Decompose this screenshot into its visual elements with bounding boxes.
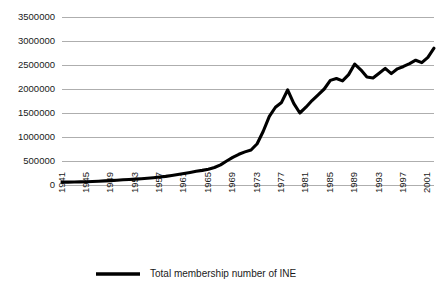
y-axis-tick-label: 500000 [23, 155, 55, 166]
y-axis-tick-label: 0 [50, 179, 55, 190]
x-axis-tick-label: 1993 [373, 172, 384, 193]
y-axis-tick-label: 1000000 [18, 131, 55, 142]
x-axis-tick-label: 1949 [104, 172, 115, 193]
gridlines [62, 17, 434, 185]
line-chart: 0500000100000015000002000000250000030000… [0, 0, 445, 292]
x-axis-tick-label: 1957 [153, 172, 164, 193]
x-axis-tick-label: 1977 [275, 172, 286, 193]
chart-legend: Total membership number of INE [96, 268, 297, 279]
y-axis-tick-label: 2000000 [18, 83, 55, 94]
x-axis-tick-label: 1997 [397, 172, 408, 193]
y-axis-tick-label: 3000000 [18, 35, 55, 46]
x-axis-tick-label: 1973 [251, 172, 262, 193]
x-axis-tick-label: 1981 [299, 172, 310, 193]
x-axis-tick-label: 1989 [348, 172, 359, 193]
x-axis-tick-label: 1965 [202, 172, 213, 193]
chart-figure: 0500000100000015000002000000250000030000… [0, 0, 445, 292]
x-axis-tick-label: 1969 [226, 172, 237, 193]
y-axis-tick-label: 2500000 [18, 59, 55, 70]
x-axis-tick-label: 1953 [129, 172, 140, 193]
y-axis-tick-label: 3500000 [18, 11, 55, 22]
y-axis-tick-label: 1500000 [18, 107, 55, 118]
data-series-group [62, 48, 434, 182]
x-axis-tick-label: 2001 [421, 172, 432, 193]
x-axis-tick-labels: 1941194519491953195719611965196919731977… [56, 172, 433, 193]
x-axis-tick-label: 1985 [324, 172, 335, 193]
data-series-line [62, 48, 434, 182]
y-axis-tick-labels: 0500000100000015000002000000250000030000… [18, 11, 55, 190]
legend-label: Total membership number of INE [150, 268, 297, 279]
